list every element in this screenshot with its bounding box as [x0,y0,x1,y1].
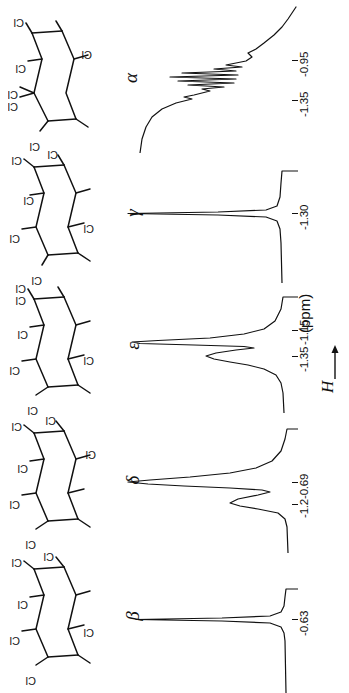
axis-field-label: H [318,381,338,393]
axis-arrow-icon [326,345,336,379]
spectrum-trace-alpha [118,0,268,153]
cl-label: Cl [10,635,20,647]
spectrum-alpha-svg [118,0,298,153]
structure-delta: Cl Cl Cl Cl Cl Cl [8,401,116,551]
peak-label-alpha-1: -1.35 [298,92,310,117]
spectrum-trace-epsilon [118,283,268,413]
cl-label: Cl [12,155,22,167]
cl-label: Cl [32,275,42,285]
spectrum-trace-gamma [118,153,268,283]
cl-label: Cl [84,355,94,367]
cl-label: Cl [8,89,18,101]
peak-label-delta-1: -1.2 [298,499,310,518]
cl-label: Cl [18,463,28,475]
cl-label: Cl [26,539,36,551]
cl-label: Cl [82,49,92,61]
cl-label: Cl [84,223,94,235]
cl-label: Cl [14,17,24,29]
panel-beta: Cl Cl Cl Cl Cl Cl β -0.63 [0,553,349,693]
peak-label-delta-2: -0.69 [298,474,310,499]
arrow-right-icon [330,345,340,379]
structure-delta-svg: Cl Cl Cl Cl Cl Cl [8,401,120,551]
peak-label-epsilon-1: -1.35 [298,347,310,372]
cl-label: Cl [10,499,20,511]
panel-alpha: Cl Cl Cl Cl Cl Cl α -1.35 -0.95 [0,0,349,153]
structure-epsilon-svg: Cl Cl Cl Cl Cl Cl [8,267,120,417]
peak-label-gamma-1: -1.30 [298,205,310,230]
peak-label-beta-1: -0.63 [298,611,310,636]
cl-label: Cl [16,295,26,307]
spectrum-beta-svg [118,553,298,693]
axis-unit-label: (ppm) [296,294,313,333]
peak-label-alpha-2: -0.95 [298,52,310,77]
cl-label: Cl [10,233,20,245]
spectrum-trace-delta [118,413,268,553]
spectrum-epsilon-svg [118,283,298,413]
structure-gamma-svg: Cl Cl Cl Cl Cl Cl [8,135,120,285]
cl-label: Cl [16,63,26,75]
cl-label: Cl [30,141,40,151]
cl-label: Cl [8,101,18,113]
structure-alpha: Cl Cl Cl Cl Cl Cl [8,1,116,151]
spectrum-delta-svg [118,413,298,553]
spectrum-trace-beta [118,553,268,693]
cl-label: Cl [12,557,22,569]
structure-beta: Cl Cl Cl Cl Cl Cl [8,537,116,687]
cl-label: Cl [18,599,28,611]
cl-label: Cl [26,675,36,687]
panel-delta: Cl Cl Cl Cl Cl Cl δ -1.2 -0.69 [0,413,349,553]
cl-label: Cl [18,329,28,341]
cl-label: Cl [86,449,96,461]
structure-epsilon: Cl Cl Cl Cl Cl Cl [8,267,116,417]
structure-alpha-svg: Cl Cl Cl Cl Cl Cl [8,1,120,151]
panel-gamma: Cl Cl Cl Cl Cl Cl γ -1.30 [0,153,349,283]
structure-gamma: Cl Cl Cl Cl Cl Cl [8,135,116,285]
cl-label: Cl [10,365,20,377]
cl-label: Cl [84,627,94,639]
nmr-figure-plate: Cl Cl Cl Cl Cl Cl β -0.63 [0,0,349,693]
cl-label: Cl [12,421,22,433]
cl-label: Cl [24,195,34,207]
cl-label: Cl [28,405,38,417]
spectrum-gamma-svg [118,153,298,283]
structure-beta-svg: Cl Cl Cl Cl Cl Cl [8,537,120,687]
